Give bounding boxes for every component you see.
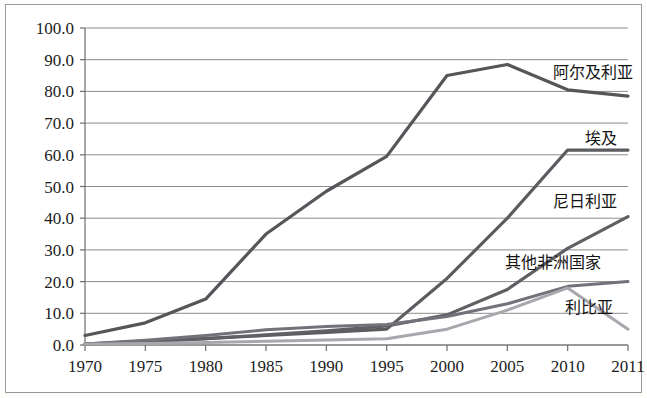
x-tick-labels-group: 1970197519801985199019952000200520102011 — [68, 357, 645, 376]
x-axis-tick-label: 2011 — [611, 357, 644, 376]
x-axis-tick-label: 2005 — [490, 357, 524, 376]
y-axis-tick-label: 0.0 — [53, 336, 74, 355]
x-axis-tick-label: 1990 — [309, 357, 343, 376]
y-axis-tick-label: 10.0 — [44, 304, 74, 323]
data-series-group — [85, 64, 628, 344]
y-axis-group — [80, 28, 85, 345]
x-axis-tick-label: 2010 — [551, 357, 585, 376]
x-axis-tick-label: 1980 — [189, 357, 223, 376]
chart-figure: 0.010.020.030.040.050.060.070.080.090.01… — [0, 0, 647, 398]
x-axis-group — [85, 345, 628, 351]
y-axis-tick-label: 90.0 — [44, 51, 74, 70]
gridlines-group — [85, 28, 628, 345]
x-axis-tick-label: 2000 — [430, 357, 464, 376]
y-axis-tick-label: 20.0 — [44, 273, 74, 292]
series-label: 阿尔及利亚 — [553, 63, 633, 82]
y-axis-tick-label: 60.0 — [44, 146, 74, 165]
series-label: 埃及 — [585, 129, 617, 148]
x-axis-tick-label: 1975 — [128, 357, 162, 376]
x-axis-tick-label: 1970 — [68, 357, 102, 376]
y-tick-labels-group: 0.010.020.030.040.050.060.070.080.090.01… — [36, 19, 74, 355]
series-label: 其他非洲国家 — [505, 253, 601, 272]
x-axis-tick-label: 1985 — [249, 357, 283, 376]
y-axis-tick-label: 100.0 — [36, 19, 74, 38]
series-label: 尼日利亚 — [553, 192, 617, 211]
x-axis-tick-label: 1995 — [370, 357, 404, 376]
y-axis-tick-label: 30.0 — [44, 241, 74, 260]
y-axis-tick-label: 40.0 — [44, 209, 74, 228]
y-axis-tick-label: 80.0 — [44, 82, 74, 101]
series-label: 利比亚 — [565, 298, 613, 317]
y-axis-tick-label: 50.0 — [44, 178, 74, 197]
line-chart-canvas: 0.010.020.030.040.050.060.070.080.090.01… — [0, 0, 647, 398]
y-axis-tick-label: 70.0 — [44, 114, 74, 133]
